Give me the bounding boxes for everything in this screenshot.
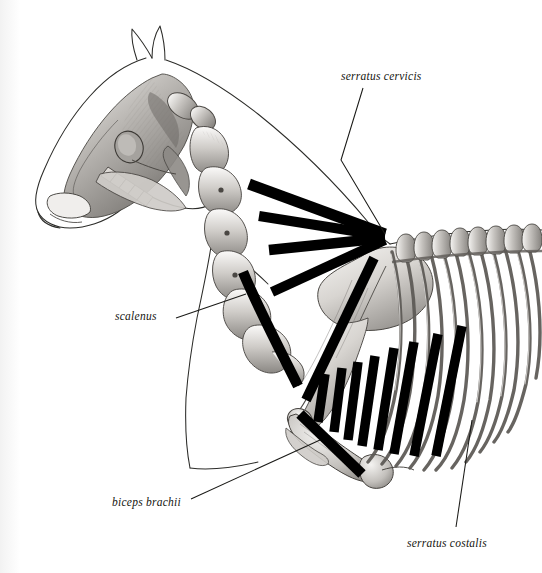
leader-biceps-brachii bbox=[191, 440, 320, 499]
horse-skeleton-illustration bbox=[0, 0, 542, 573]
leader-serratus-costalis bbox=[456, 420, 472, 527]
anatomical-plate: serratus cervicis scalenus biceps brachi… bbox=[0, 0, 542, 573]
label-serratus-costalis: serratus costalis bbox=[407, 538, 487, 550]
label-scalenus: scalenus bbox=[115, 311, 157, 323]
label-biceps-brachii: biceps brachii bbox=[112, 497, 181, 509]
label-serratus-cervicis: serratus cervicis bbox=[341, 71, 422, 83]
leader-serratus-cervicis bbox=[341, 88, 385, 234]
